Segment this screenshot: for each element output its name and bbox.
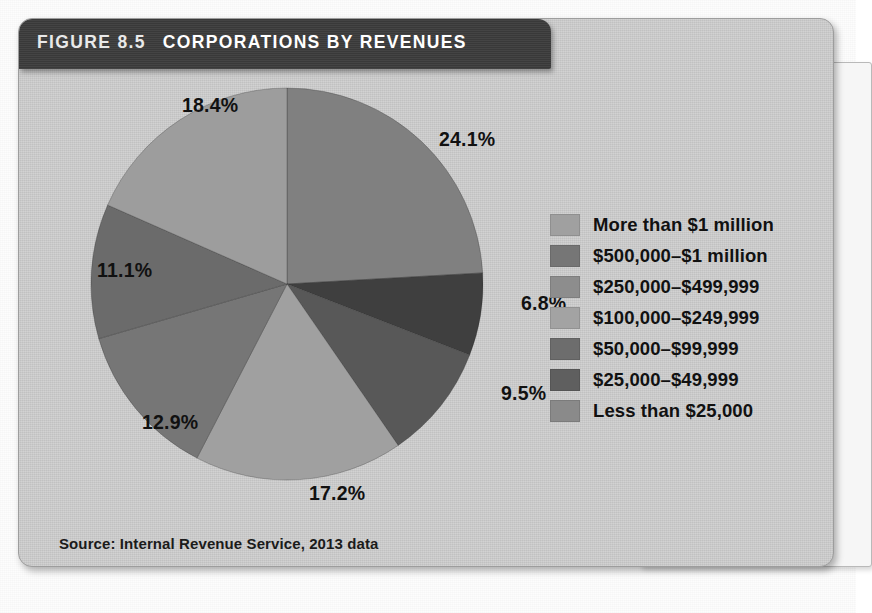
legend-item[interactable]: Less than $25,000 bbox=[550, 395, 834, 426]
legend-item[interactable]: $250,000–$499,999 bbox=[550, 271, 834, 302]
pie-value-label: 9.5% bbox=[501, 382, 546, 405]
pie-slice[interactable] bbox=[287, 88, 483, 284]
figure-title-tab: FIGURE 8.5 CORPORATIONS BY REVENUES bbox=[19, 19, 551, 69]
legend-color-swatch bbox=[550, 369, 580, 391]
pie-value-label: 24.1% bbox=[439, 128, 495, 151]
pie-value-label: 11.1% bbox=[97, 259, 152, 282]
legend-color-swatch bbox=[550, 338, 580, 360]
legend-item-label: $100,000–$249,999 bbox=[593, 307, 759, 329]
legend-item[interactable]: $25,000–$49,999 bbox=[550, 364, 834, 395]
figure-panel: FIGURE 8.5 CORPORATIONS BY REVENUES 24.1… bbox=[18, 18, 834, 567]
figure-title-bar: FIGURE 8.5 CORPORATIONS BY REVENUES bbox=[37, 32, 467, 53]
legend-color-swatch bbox=[550, 276, 580, 298]
source-note: Source: Internal Revenue Service, 2013 d… bbox=[59, 535, 378, 552]
chart-legend: More than $1 million$500,000–$1 million$… bbox=[550, 209, 834, 426]
pie-value-label: 12.9% bbox=[142, 411, 198, 434]
legend-item-label: $250,000–$499,999 bbox=[593, 276, 759, 298]
pie-value-label: 17.2% bbox=[309, 482, 365, 505]
legend-item-label: Less than $25,000 bbox=[593, 400, 753, 422]
legend-color-swatch bbox=[550, 245, 580, 267]
legend-item[interactable]: $500,000–$1 million bbox=[550, 240, 834, 271]
legend-color-swatch bbox=[550, 214, 580, 236]
legend-color-swatch bbox=[550, 307, 580, 329]
chart-area: 24.1%6.8%9.5%17.2%12.9%11.1%18.4% More t… bbox=[19, 69, 833, 566]
legend-item[interactable]: $100,000–$249,999 bbox=[550, 302, 834, 333]
legend-item-label: $500,000–$1 million bbox=[593, 245, 768, 267]
pie-value-label: 18.4% bbox=[182, 94, 238, 117]
legend-item-label: $25,000–$49,999 bbox=[593, 369, 739, 391]
figure-title: CORPORATIONS BY REVENUES bbox=[163, 32, 467, 53]
legend-item-label: More than $1 million bbox=[593, 214, 774, 236]
legend-item[interactable]: More than $1 million bbox=[550, 209, 834, 240]
legend-color-swatch bbox=[550, 400, 580, 422]
legend-item[interactable]: $50,000–$99,999 bbox=[550, 333, 834, 364]
figure-number: FIGURE 8.5 bbox=[37, 32, 146, 53]
pie-chart: 24.1%6.8%9.5%17.2%12.9%11.1%18.4% bbox=[87, 84, 487, 484]
legend-item-label: $50,000–$99,999 bbox=[593, 338, 739, 360]
